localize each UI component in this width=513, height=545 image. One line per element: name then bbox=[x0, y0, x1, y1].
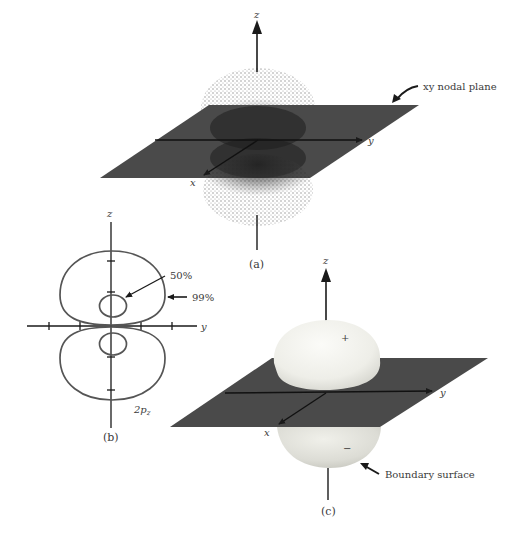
panel-a-electron-cloud: z y x xy nodal plane (a) bbox=[100, 9, 497, 271]
panel-b-inner-contour-top bbox=[100, 295, 127, 317]
panel-a-caption: (a) bbox=[249, 258, 264, 271]
panel-c-y-label: y bbox=[439, 387, 446, 398]
panel-c-z-label: z bbox=[322, 255, 329, 266]
panel-a-annotation: xy nodal plane bbox=[423, 81, 497, 92]
panel-b-outer-contour-bottom bbox=[60, 327, 165, 400]
panel-c-boundary-surface: z + y x − Boundary surface (c) bbox=[170, 255, 488, 518]
panel-c-annotation: Boundary surface bbox=[385, 469, 475, 480]
panel-b-50-pointer bbox=[126, 276, 165, 297]
orbital-figure: z y x xy nodal plane (a) z bbox=[0, 0, 513, 545]
panel-c-top-sign: + bbox=[341, 332, 349, 343]
panel-a-x-label: x bbox=[190, 177, 196, 188]
panel-c-top-lobe bbox=[274, 320, 380, 390]
panel-c-x-label: x bbox=[264, 427, 270, 438]
panel-a-annotation-arrow-icon bbox=[397, 86, 418, 99]
panel-b-orbital-label: 2pz bbox=[133, 404, 151, 417]
panel-b-50-label: 50% bbox=[170, 270, 192, 281]
panel-c-bottom-lobe bbox=[277, 427, 381, 468]
panel-b-y-label: y bbox=[200, 321, 207, 332]
panel-a-y-label: y bbox=[367, 135, 374, 146]
panel-c-caption: (c) bbox=[321, 505, 336, 518]
panel-b-inner-contour-bottom bbox=[100, 333, 127, 355]
panel-b-z-label: z bbox=[106, 208, 113, 219]
panel-b-outer-contour-top bbox=[60, 251, 165, 325]
panel-a-z-arrowhead-icon bbox=[252, 20, 262, 34]
panel-b-contour-plot: z y 50% 99% 2pz (b) bbox=[27, 208, 214, 444]
panel-c-z-arrowhead-icon bbox=[321, 268, 331, 282]
panel-c-bottom-sign: − bbox=[343, 443, 351, 454]
panel-b-99-label: 99% bbox=[192, 292, 214, 303]
panel-a-z-label: z bbox=[253, 9, 260, 20]
panel-b-caption: (b) bbox=[103, 431, 119, 444]
